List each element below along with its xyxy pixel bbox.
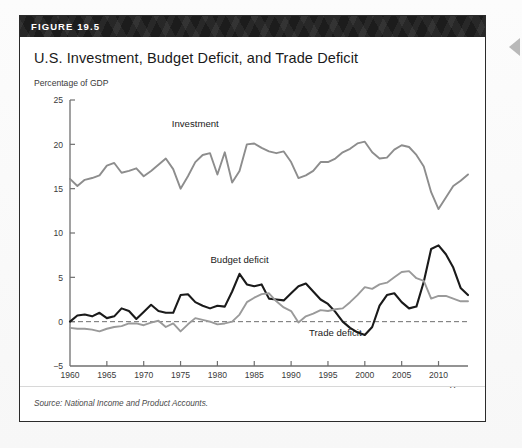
annotation-budget-deficit: Budget deficit — [210, 254, 268, 265]
x-tick-label: 1980 — [208, 370, 227, 380]
figure-title: U.S. Investment, Budget Deficit, and Tra… — [20, 37, 485, 66]
source-note: Source: National Income and Product Acco… — [34, 399, 208, 408]
x-tick-label: 1985 — [245, 370, 264, 380]
y-tick-label: 15 — [53, 184, 63, 194]
series-line-investment — [70, 142, 468, 209]
y-tick-label: 10 — [53, 228, 63, 238]
y-tick-label: 20 — [53, 140, 63, 150]
x-tick-label: 1995 — [318, 370, 337, 380]
x-tick-label: 2010 — [429, 370, 448, 380]
chart-plot-area: −505101520251960196519701975198019851990… — [20, 88, 487, 388]
y-tick-label: 25 — [53, 95, 63, 105]
page-edge-marker — [509, 38, 520, 56]
x-tick-label: 1960 — [60, 370, 79, 380]
y-tick-label: 0 — [58, 317, 63, 327]
x-tick-label: 2005 — [392, 370, 411, 380]
source-divider — [20, 386, 485, 387]
y-axis-unit-label: Percentage of GDP — [20, 66, 485, 88]
x-tick-label: 1975 — [171, 370, 190, 380]
figure-header-bar: FIGURE 19.5 — [20, 16, 485, 37]
x-tick-label: 1990 — [282, 370, 301, 380]
x-tick-label: 1965 — [97, 370, 116, 380]
y-tick-label: 5 — [58, 273, 63, 283]
annotation-investment: Investment — [172, 118, 219, 129]
x-tick-label: 1970 — [134, 370, 153, 380]
figure-card: FIGURE 19.5 U.S. Investment, Budget Defi… — [19, 15, 486, 422]
x-tick-label: 2000 — [355, 370, 374, 380]
line-chart-svg: −505101520251960196519701975198019851990… — [20, 88, 487, 388]
figure-number-label: FIGURE 19.5 — [31, 21, 100, 32]
annotation-trade-deficit: Trade deficit — [309, 327, 362, 338]
series-line-trade-deficit — [70, 271, 468, 331]
